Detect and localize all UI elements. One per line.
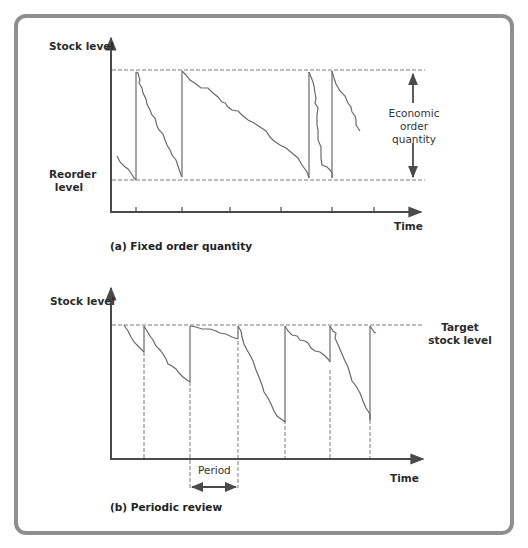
review-point-dashed-lines [144,341,370,488]
target-label-line1: Target [425,321,495,334]
reorder-label-line1: Reorder [49,168,89,181]
stock-level-curve [124,325,376,422]
panel-a-y-axis-label: Stock level [49,40,114,53]
stock-level-curve [117,71,360,180]
eoq-label: Economic order quantity [384,107,444,146]
eoq-label-line1: Economic [384,107,444,120]
period-label: Period [198,464,231,477]
eoq-label-line3: quantity [384,133,444,146]
panel-a-caption: (a) Fixed order quantity [110,240,252,252]
panel-b-caption: (b) Periodic review [110,501,222,513]
reorder-label-line2: level [49,181,89,194]
target-stock-level-label: Target stock level [425,321,495,347]
eoq-label-line2: order [384,120,444,133]
reorder-level-label: Reorder level [49,168,89,194]
panel-b-y-axis-label: Stock level [50,295,115,308]
target-label-line2: stock level [425,334,495,347]
inventory-diagram [0,0,528,548]
panel-a-x-axis-label: Time [394,220,423,233]
panel-b-chart [110,288,424,488]
panel-a-chart [110,38,425,212]
panel-b-x-axis-label: Time [390,472,419,485]
